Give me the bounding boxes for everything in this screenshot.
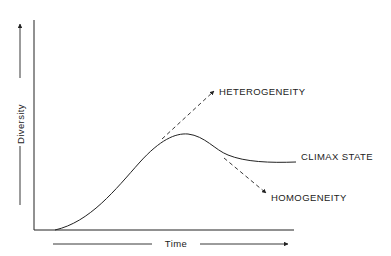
y-axis-label: Diversity — [15, 104, 26, 144]
x-axis-label: Time — [165, 238, 187, 249]
climax-state-label: CLIMAX STATE — [301, 151, 373, 162]
diversity-curve — [55, 134, 296, 230]
homogeneity-arrow — [224, 158, 266, 193]
homogeneity-label: HOMOGENEITY — [271, 192, 347, 203]
heterogeneity-arrow — [162, 91, 214, 139]
succession-diagram: Diversity Time HETEROGENEITY CLIMAX STAT… — [0, 0, 391, 256]
heterogeneity-label: HETEROGENEITY — [219, 86, 306, 97]
